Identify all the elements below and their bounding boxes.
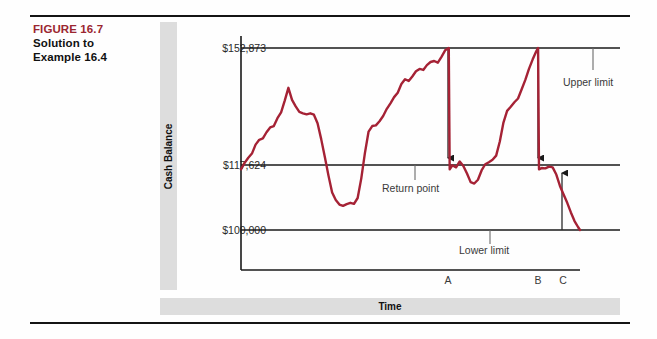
cash-balance-line (241, 48, 580, 230)
cash-balance-chart (0, 0, 657, 339)
figure-page: FIGURE 16.7 Solution to Example 16.4 Cas… (0, 0, 657, 339)
